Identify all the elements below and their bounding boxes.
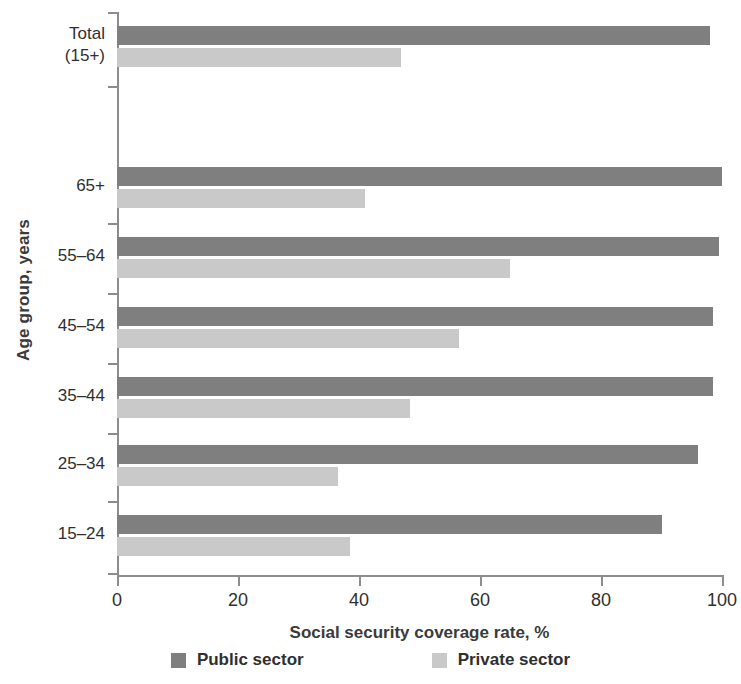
bar-group <box>117 515 722 556</box>
x-axis-tick-label: 100 <box>707 590 737 611</box>
bar-group <box>117 237 722 278</box>
y-axis-tick <box>108 293 117 295</box>
bar-private-sector[interactable] <box>117 399 410 418</box>
bar-public-sector[interactable] <box>117 237 719 256</box>
bar-group <box>117 307 722 348</box>
bar-public-sector[interactable] <box>117 445 698 464</box>
bar-private-sector[interactable] <box>117 329 459 348</box>
x-axis-tick-label: 0 <box>112 590 122 611</box>
y-axis-tick-label: 25–34 <box>1 453 105 475</box>
chart-container: Age group, years Total (15+)65+55–6445–5… <box>0 0 741 684</box>
plot-area: Total (15+)65+55–6445–5435–4425–3415–24 … <box>117 12 722 575</box>
x-axis-tick-label: 80 <box>591 590 611 611</box>
bar-public-sector[interactable] <box>117 377 713 396</box>
bar-public-sector[interactable] <box>117 26 710 45</box>
y-axis-title: Age group, years <box>14 190 34 390</box>
bar-group <box>117 167 722 208</box>
y-axis-tick-label: 55–64 <box>1 245 105 267</box>
x-axis-tick <box>601 577 603 586</box>
bar-private-sector[interactable] <box>117 189 365 208</box>
y-axis-line <box>117 12 119 575</box>
x-axis-tick <box>480 577 482 586</box>
bar-group <box>117 26 722 67</box>
y-axis-tick-label: 35–44 <box>1 385 105 407</box>
bar-private-sector[interactable] <box>117 48 401 67</box>
legend-item[interactable]: Public sector <box>171 650 304 670</box>
legend-swatch-icon <box>432 653 447 668</box>
x-axis-tick-label: 60 <box>470 590 490 611</box>
y-axis-tick <box>108 501 117 503</box>
x-axis-tick <box>722 577 724 586</box>
bar-group <box>117 377 722 418</box>
bar-group <box>117 445 722 486</box>
chart-legend: Public sectorPrivate sector <box>0 650 741 670</box>
bar-public-sector[interactable] <box>117 515 662 534</box>
y-axis-tick-label: 65+ <box>1 175 105 197</box>
bar-public-sector[interactable] <box>117 307 713 326</box>
bar-private-sector[interactable] <box>117 467 338 486</box>
bar-public-sector[interactable] <box>117 167 722 186</box>
legend-label: Public sector <box>197 650 304 670</box>
x-axis-tick-label: 20 <box>228 590 248 611</box>
y-axis-tick <box>108 433 117 435</box>
legend-swatch-icon <box>171 653 186 668</box>
x-axis-tick <box>359 577 361 586</box>
y-axis-tick <box>108 12 117 14</box>
x-axis-tick-label: 40 <box>349 590 369 611</box>
legend-label: Private sector <box>458 650 570 670</box>
x-axis-title: Social security coverage rate, % <box>117 623 722 643</box>
x-axis-tick <box>238 577 240 586</box>
y-axis-tick <box>108 363 117 365</box>
bar-private-sector[interactable] <box>117 259 510 278</box>
x-axis-line <box>117 575 724 577</box>
y-axis-tick <box>108 223 117 225</box>
x-axis-tick <box>117 577 119 586</box>
bar-private-sector[interactable] <box>117 537 350 556</box>
y-axis-tick-label: Total (15+) <box>1 23 105 68</box>
y-axis-tick <box>108 86 117 88</box>
y-axis-tick-label: 15–24 <box>1 523 105 545</box>
legend-item[interactable]: Private sector <box>432 650 570 670</box>
y-axis-tick-label: 45–54 <box>1 315 105 337</box>
y-axis-tick <box>108 573 117 575</box>
